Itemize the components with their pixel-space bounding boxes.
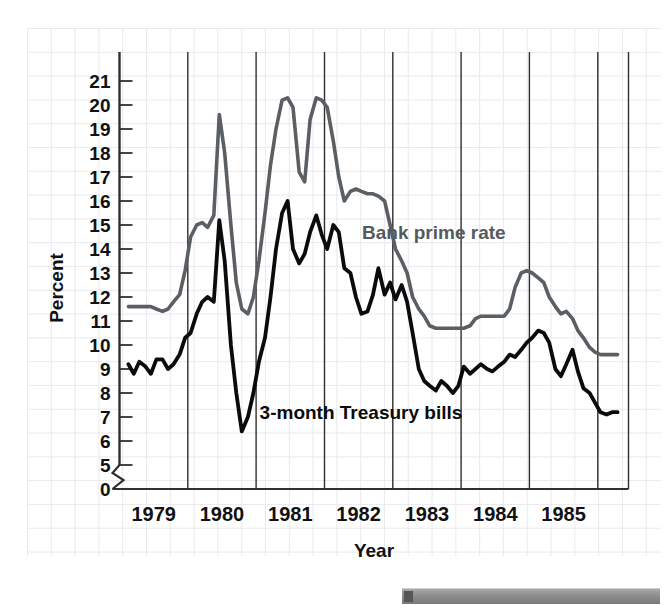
- y-axis-tick-label: 18: [89, 143, 110, 164]
- x-axis-tick-label: 1984: [473, 503, 518, 525]
- y-axis-zero-label: 0: [100, 479, 111, 500]
- y-axis-ticks: [120, 81, 133, 465]
- x-axis-tick-label: 1985: [541, 503, 586, 525]
- y-axis-tick-label: 10: [89, 335, 110, 356]
- y-axis-tick-label: 8: [100, 383, 111, 404]
- y-axis-tick-label: 15: [89, 215, 111, 236]
- series-label-treasury-bills: 3-month Treasury bills: [260, 402, 463, 423]
- y-axis-tick-label: 11: [90, 311, 111, 332]
- chart-axes: [113, 52, 629, 489]
- x-axis-title: Year: [354, 540, 395, 561]
- y-axis-tick-label: 20: [89, 95, 110, 116]
- chart-svg: 567891011121314151617181920210 197919801…: [0, 0, 671, 605]
- y-axis-break-zigzag: [113, 465, 124, 489]
- y-axis-tick-label: 14: [89, 239, 111, 260]
- y-axis-title: Percent: [46, 252, 67, 322]
- y-axis-tick-label: 9: [100, 359, 111, 380]
- y-axis-tick-label: 21: [89, 71, 111, 92]
- toolbar-handle[interactable]: [404, 591, 413, 602]
- y-axis-tick-label: 7: [100, 407, 111, 428]
- chart-series-lines: [128, 98, 617, 432]
- bottom-toolbar-strip[interactable]: [402, 588, 660, 604]
- y-axis-tick-labels: 567891011121314151617181920210: [89, 71, 111, 500]
- chart-gridlines: [188, 52, 629, 489]
- x-axis-tick-label: 1981: [268, 503, 313, 525]
- y-axis-tick-label: 19: [89, 119, 110, 140]
- y-axis-tick-label: 6: [100, 431, 111, 452]
- x-axis-tick-label: 1980: [200, 503, 245, 525]
- y-axis-tick-label: 16: [89, 191, 110, 212]
- x-axis-tick-label: 1983: [405, 503, 450, 525]
- y-axis-tick-label: 5: [100, 455, 111, 476]
- y-axis-tick-label: 12: [89, 287, 110, 308]
- x-axis-tick-labels: 1979198019811982198319841985: [131, 503, 585, 525]
- y-axis-tick-label: 13: [89, 263, 110, 284]
- series-label-bank-prime-rate: Bank prime rate: [362, 222, 506, 243]
- x-axis-tick-label: 1979: [131, 503, 176, 525]
- x-axis-tick-label: 1982: [336, 503, 381, 525]
- interest-rates-line-chart: 567891011121314151617181920210 197919801…: [0, 0, 671, 605]
- y-axis-tick-label: 17: [89, 167, 110, 188]
